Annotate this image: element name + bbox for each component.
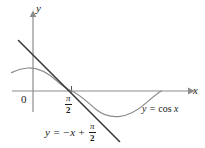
cosine-equation-function: cos (158, 103, 171, 114)
math-graph-figure: y x 0 π 2 y = −x + π 2 y = cos x (0, 0, 205, 148)
tick-label-pi-over-2: π 2 (65, 95, 72, 116)
origin-label: 0 (21, 94, 27, 105)
x-axis (12, 88, 195, 95)
line-equation-fraction: π 2 (89, 122, 96, 143)
fraction-denominator: 2 (65, 106, 72, 115)
fraction-pi-over-2: π 2 (65, 94, 72, 115)
x-axis-label: x (193, 85, 198, 96)
cosine-equation-variable: x (174, 103, 178, 114)
fraction-denominator: 2 (89, 134, 96, 143)
fraction-numerator: π (65, 94, 72, 103)
y-axis (30, 11, 37, 113)
cosine-equation-equals: = (149, 103, 156, 114)
plot-canvas (0, 0, 205, 148)
cosine-equation-label: y = cos x (142, 104, 179, 114)
line-equation-label: y = −x + π 2 (45, 123, 96, 144)
fraction-numerator: π (89, 122, 96, 131)
line-equation-text: y = −x + (45, 126, 85, 138)
y-axis-label: y (36, 3, 41, 14)
cosine-equation-y: y (142, 103, 146, 114)
